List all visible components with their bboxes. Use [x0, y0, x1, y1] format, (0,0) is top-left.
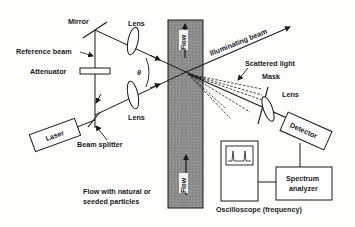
spectrum-analyzer-label-1: Spectrum	[286, 174, 319, 183]
detector: Detector	[280, 112, 332, 150]
flow-channel: Flow Flow	[168, 20, 203, 208]
spectrum-analyzer-label-2: analyzer	[289, 184, 318, 193]
ldv-diagram: Flow Flow Mirror Reference beam Attenuat…	[0, 0, 355, 227]
lens-top-label: Lens	[128, 19, 145, 28]
attenuator	[80, 68, 110, 74]
mask-label: Mask	[262, 72, 280, 81]
flow-label-bottom: Flow	[180, 177, 187, 193]
laser: Laser	[29, 118, 80, 151]
lens-top	[125, 26, 141, 55]
flow-label-top: Flow	[180, 34, 187, 50]
oscilloscope	[221, 141, 258, 201]
lens-detector-label: Lens	[282, 90, 299, 99]
scattered-light-label: Scattered light	[245, 59, 296, 68]
lens-bottom-label: Lens	[128, 113, 145, 122]
theta-label: θ	[137, 68, 141, 77]
flow-caption-line2: seeded particles	[83, 197, 139, 206]
oscilloscope-screen	[226, 146, 253, 165]
reference-beam-label: Reference beam	[16, 47, 72, 56]
beam-splitter	[88, 112, 100, 127]
spectrum-analyzer: Spectrum analyzer	[276, 167, 332, 200]
flow-caption-line1: Flow with natural or	[83, 187, 151, 196]
oscilloscope-label: Oscilloscope (frequency)	[216, 205, 302, 214]
beam-splitter-label: Beam splitter	[77, 140, 123, 149]
lens-bottom	[125, 80, 141, 109]
mirror-label: Mirror	[68, 17, 89, 26]
illuminating-beam-label: Illuminating beam	[208, 27, 268, 58]
attenuator-label: Attenuator	[30, 67, 67, 76]
theta-arc	[146, 58, 149, 87]
diagram-svg: Flow Flow Mirror Reference beam Attenuat…	[0, 0, 355, 227]
